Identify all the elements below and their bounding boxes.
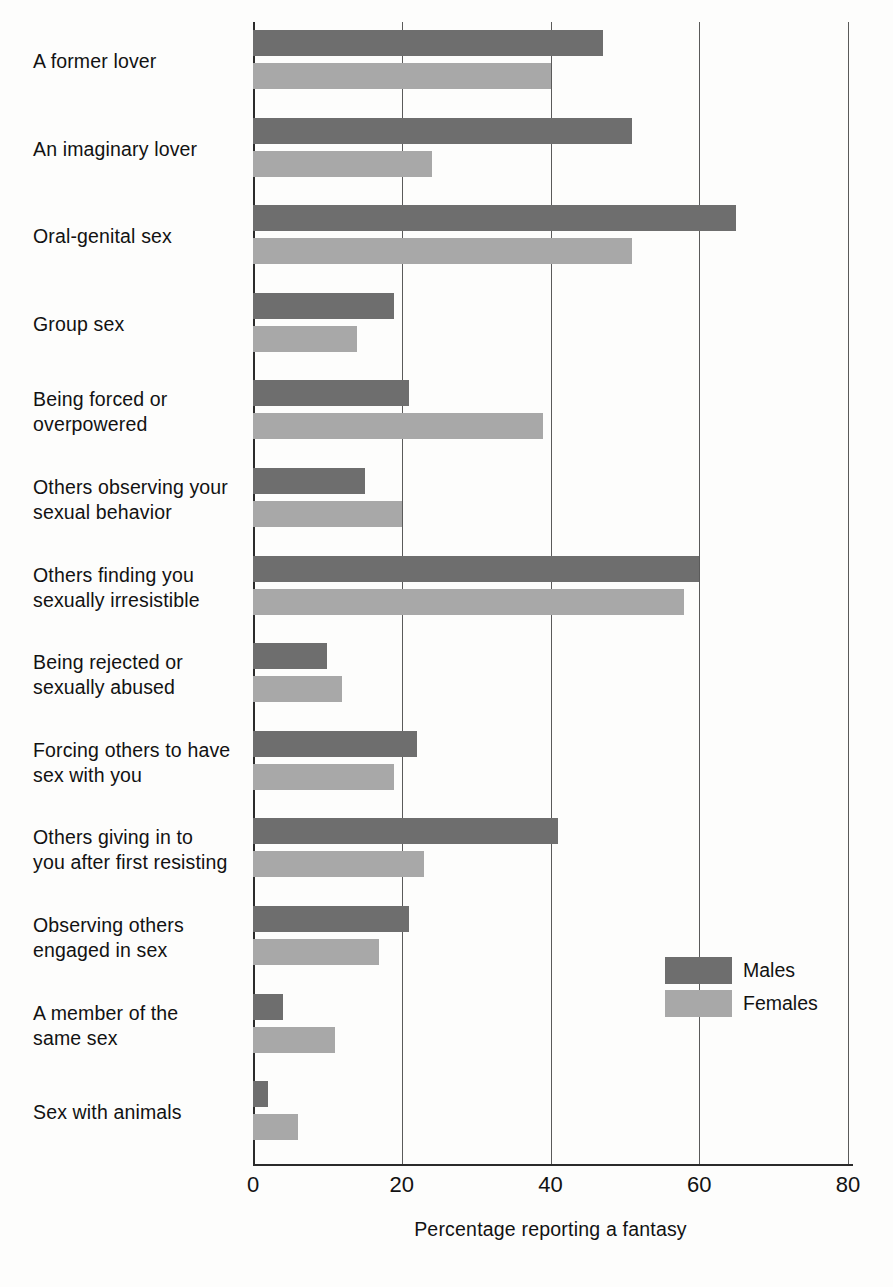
bar-females — [253, 676, 342, 702]
bar-males — [253, 30, 603, 56]
category-label-line: Others giving in to — [33, 825, 248, 850]
chart-row: Being rejected orsexually abused — [0, 643, 893, 731]
bar-females — [253, 589, 684, 615]
x-tick-label-40: 40 — [521, 1172, 581, 1198]
bar-males — [253, 293, 394, 319]
category-label: A former lover — [33, 49, 248, 74]
x-tick-label-20: 20 — [372, 1172, 432, 1198]
category-label-line: engaged in sex — [33, 938, 248, 963]
bar-males — [253, 468, 365, 494]
bar-males — [253, 731, 417, 757]
bar-males — [253, 1081, 268, 1107]
category-label: Others finding yousexually irresistible — [33, 563, 248, 613]
chart-row: Group sex — [0, 293, 893, 381]
chart-row: Others finding yousexually irresistible — [0, 556, 893, 644]
category-label-line: A member of the — [33, 1001, 248, 1026]
bar-males — [253, 118, 632, 144]
x-tick-label-80: 80 — [818, 1172, 878, 1198]
category-label-line: A former lover — [33, 49, 248, 74]
chart-row: Sex with animals — [0, 1081, 893, 1169]
category-label-line: same sex — [33, 1026, 248, 1051]
category-label-line: Being rejected or — [33, 650, 248, 675]
category-label-line: Observing others — [33, 913, 248, 938]
category-label-line: Forcing others to have — [33, 738, 248, 763]
bar-females — [253, 1114, 298, 1140]
legend-label: Males — [743, 956, 795, 984]
chart-row: An imaginary lover — [0, 118, 893, 206]
chart-row: Forcing others to havesex with you — [0, 731, 893, 819]
bar-males — [253, 994, 283, 1020]
category-label-line: Others observing your — [33, 475, 248, 500]
chart-row: Being forced oroverpowered — [0, 380, 893, 468]
category-label: Sex with animals — [33, 1100, 248, 1125]
category-label-line: sex with you — [33, 763, 248, 788]
category-label: Oral-genital sex — [33, 224, 248, 249]
category-label-line: Oral-genital sex — [33, 224, 248, 249]
category-label: Observing othersengaged in sex — [33, 913, 248, 963]
category-label-line: sexually irresistible — [33, 588, 248, 613]
category-label-line: Sex with animals — [33, 1100, 248, 1125]
bar-males — [253, 380, 409, 406]
category-label: Group sex — [33, 312, 248, 337]
category-label-line: Group sex — [33, 312, 248, 337]
chart-row: A former lover — [0, 30, 893, 118]
chart-row: Others observing yoursexual behavior — [0, 468, 893, 556]
legend-item-males: Males — [665, 955, 865, 988]
x-tick-label-0: 0 — [223, 1172, 283, 1198]
category-label-line: you after first resisting — [33, 850, 248, 875]
x-axis-title: Percentage reporting a fantasy — [253, 1218, 848, 1241]
bar-females — [253, 413, 543, 439]
category-label: Forcing others to havesex with you — [33, 738, 248, 788]
legend-swatch-males — [665, 957, 732, 984]
bar-females — [253, 764, 394, 790]
category-label: Being rejected orsexually abused — [33, 650, 248, 700]
bar-males — [253, 643, 327, 669]
bar-females — [253, 238, 632, 264]
bar-chart-figure: A former loverAn imaginary loverOral-gen… — [0, 0, 893, 1287]
bar-males — [253, 556, 699, 582]
category-label-line: sexually abused — [33, 675, 248, 700]
bar-males — [253, 205, 736, 231]
bar-females — [253, 63, 551, 89]
chart-row: Oral-genital sex — [0, 205, 893, 293]
bar-males — [253, 818, 558, 844]
category-label-line: Being forced or — [33, 387, 248, 412]
chart-legend: MalesFemales — [665, 955, 865, 1021]
category-label: A member of thesame sex — [33, 1001, 248, 1051]
x-tick-label-60: 60 — [669, 1172, 729, 1198]
category-label-line: sexual behavior — [33, 500, 248, 525]
legend-swatch-females — [665, 990, 732, 1017]
bar-females — [253, 851, 424, 877]
bar-females — [253, 939, 379, 965]
category-label-line: An imaginary lover — [33, 137, 248, 162]
bar-females — [253, 326, 357, 352]
category-label: Others observing yoursexual behavior — [33, 475, 248, 525]
bar-females — [253, 501, 402, 527]
bar-females — [253, 151, 432, 177]
bar-males — [253, 906, 409, 932]
category-label: An imaginary lover — [33, 137, 248, 162]
legend-item-females: Females — [665, 988, 865, 1021]
category-label-line: Others finding you — [33, 563, 248, 588]
category-label: Being forced oroverpowered — [33, 387, 248, 437]
category-label: Others giving in toyou after first resis… — [33, 825, 248, 875]
bar-females — [253, 1027, 335, 1053]
legend-label: Females — [743, 989, 818, 1017]
chart-row: Others giving in toyou after first resis… — [0, 818, 893, 906]
category-label-line: overpowered — [33, 412, 248, 437]
